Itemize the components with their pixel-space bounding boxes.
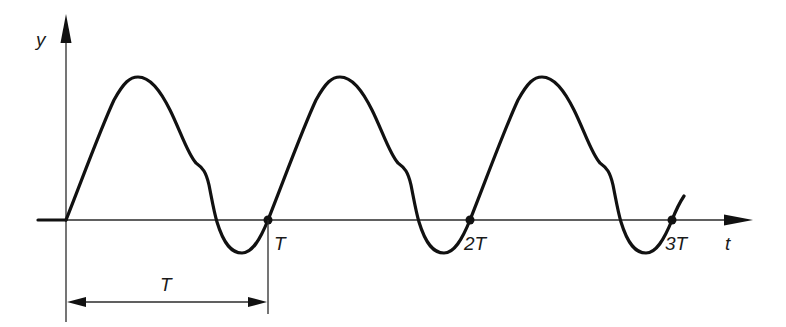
x-axis: t bbox=[66, 215, 753, 255]
y-axis-label: y bbox=[34, 29, 47, 50]
y-axis: y bbox=[34, 14, 72, 322]
waveform-curve bbox=[66, 77, 684, 253]
period-marker-3T bbox=[668, 216, 677, 225]
period-dimension: T bbox=[67, 220, 268, 314]
label-T: T bbox=[274, 233, 287, 254]
label-2T: 2T bbox=[463, 233, 488, 254]
dimension-arrow-right-icon bbox=[248, 297, 267, 307]
y-axis-arrow-icon bbox=[61, 14, 72, 43]
dimension-label: T bbox=[160, 274, 173, 295]
period-marker-2T bbox=[466, 216, 475, 225]
dimension-arrow-left-icon bbox=[67, 297, 86, 307]
x-axis-label: t bbox=[725, 233, 731, 254]
periodic-waveform-diagram: y t T 2T 3T T bbox=[0, 0, 786, 327]
x-axis-arrow-icon bbox=[724, 215, 753, 226]
label-3T: 3T bbox=[665, 233, 689, 254]
